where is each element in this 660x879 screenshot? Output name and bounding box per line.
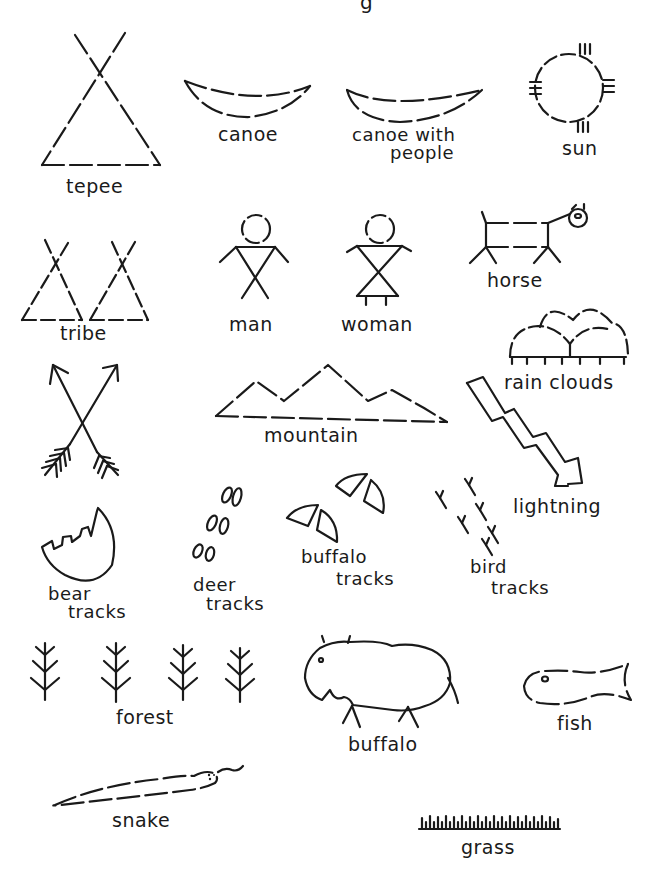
deer-tracks-icon: [191, 486, 243, 562]
man-icon: [220, 215, 288, 298]
canoe-with-people-label-line2: people: [390, 143, 454, 163]
buffalo-label: buffalo: [348, 734, 418, 754]
lightning-label: lightning: [513, 496, 601, 516]
canoe-icon: [185, 81, 310, 117]
fish-label: fish: [557, 713, 593, 733]
rain-clouds-icon: [510, 310, 628, 364]
sun-icon: [530, 44, 614, 132]
mountain-icon: [216, 365, 447, 422]
buffalo-icon: [305, 636, 458, 727]
rain-clouds-label: rain clouds: [504, 372, 614, 392]
bird-tracks-label-line2: tracks: [491, 578, 549, 598]
bear-tracks-label-line2: tracks: [68, 602, 126, 622]
buffalo-tracks-icon: [287, 474, 384, 542]
canoe-with-people-icon: [347, 90, 482, 122]
tribe-icon: [22, 240, 148, 320]
snake-label: snake: [112, 810, 170, 830]
horse-icon: [470, 204, 587, 263]
tepee-icon: [42, 33, 160, 165]
woman-label: woman: [341, 314, 413, 334]
sun-label: sun: [562, 138, 597, 158]
fish-icon: [524, 664, 631, 704]
forest-icon: [31, 643, 254, 702]
bird-tracks-icon: [436, 478, 498, 555]
horse-label: horse: [487, 270, 543, 290]
buffalo-tracks-label-line1: buffalo: [301, 547, 367, 567]
mountain-label: mountain: [264, 425, 359, 445]
canoe-label: canoe: [218, 124, 278, 144]
woman-icon: [347, 215, 411, 305]
deer-tracks-label-line2: tracks: [206, 594, 264, 614]
tepee-label: tepee: [66, 176, 123, 196]
lightning-icon: [467, 377, 582, 486]
bear-tracks-icon: [42, 508, 114, 581]
grass-icon: [419, 816, 560, 829]
buffalo-tracks-label-line2: tracks: [336, 569, 394, 589]
forest-label: forest: [116, 707, 174, 727]
snake-icon: [53, 766, 243, 806]
bird-tracks-label-line1: bird: [470, 557, 507, 577]
deer-tracks-label-line1: deer: [193, 575, 236, 595]
grass-label: grass: [461, 837, 515, 857]
man-label: man: [229, 314, 273, 334]
crossed-arrows-icon: [42, 365, 118, 478]
tribe-label: tribe: [60, 323, 107, 343]
